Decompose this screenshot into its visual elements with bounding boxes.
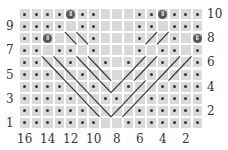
cable-cross-icon bbox=[77, 56, 89, 68]
column-label: 10 bbox=[84, 132, 104, 146]
row-label: 2 bbox=[207, 105, 215, 117]
column-label: 14 bbox=[38, 132, 58, 146]
cable-cross-icon bbox=[42, 56, 54, 68]
cable-cross-icon bbox=[77, 81, 89, 93]
column-label: 12 bbox=[61, 132, 81, 146]
column-label: 4 bbox=[153, 132, 173, 146]
cable-cross-icon bbox=[134, 93, 146, 105]
column-label: 6 bbox=[130, 132, 150, 146]
cable-cross-icon bbox=[100, 69, 112, 81]
row-label: 3 bbox=[6, 93, 14, 105]
row-label: 6 bbox=[207, 56, 215, 68]
row-label: 1 bbox=[6, 117, 14, 129]
cable-cross-icon bbox=[88, 56, 100, 68]
row-label: 9 bbox=[6, 20, 14, 32]
cable-cross-icon bbox=[134, 69, 146, 81]
cable-cross-icon bbox=[54, 69, 66, 81]
cable-cross-icon bbox=[111, 105, 123, 117]
cable-cross-icon bbox=[123, 105, 135, 117]
cable-cross-icon bbox=[77, 93, 89, 105]
cable-cross-icon bbox=[77, 32, 89, 44]
cable-cross-icon bbox=[146, 81, 158, 93]
row-label: 8 bbox=[207, 32, 215, 44]
cable-cross-icon bbox=[146, 32, 158, 44]
row-label: 4 bbox=[207, 81, 215, 93]
cable-cross-icon bbox=[134, 81, 146, 93]
row-label: 7 bbox=[6, 44, 14, 56]
column-label: 8 bbox=[107, 132, 127, 146]
cable-cross-icon bbox=[123, 69, 135, 81]
cable-lines bbox=[19, 8, 203, 129]
cable-cross-icon bbox=[88, 105, 100, 117]
cable-cross-icon bbox=[100, 81, 112, 93]
cable-cross-icon bbox=[169, 56, 181, 68]
cable-cross-icon bbox=[88, 93, 100, 105]
column-label: 16 bbox=[15, 132, 35, 146]
row-label: 10 bbox=[207, 8, 222, 20]
cable-cross-icon bbox=[169, 69, 181, 81]
cable-cross-icon bbox=[65, 69, 77, 81]
cable-cross-icon bbox=[65, 32, 77, 44]
cable-cross-icon bbox=[100, 105, 112, 117]
cable-cross-icon bbox=[146, 56, 158, 68]
cable-cross-icon bbox=[65, 81, 77, 93]
cable-cross-icon bbox=[111, 81, 123, 93]
column-label: 2 bbox=[176, 132, 196, 146]
cable-cross-icon bbox=[54, 56, 66, 68]
cable-cross-icon bbox=[157, 69, 169, 81]
row-label: 5 bbox=[6, 69, 14, 81]
cable-cross-icon bbox=[88, 69, 100, 81]
cable-cross-icon bbox=[123, 93, 135, 105]
cable-cross-icon bbox=[180, 56, 192, 68]
cable-cross-icon bbox=[157, 32, 169, 44]
cable-cross-icon bbox=[134, 56, 146, 68]
